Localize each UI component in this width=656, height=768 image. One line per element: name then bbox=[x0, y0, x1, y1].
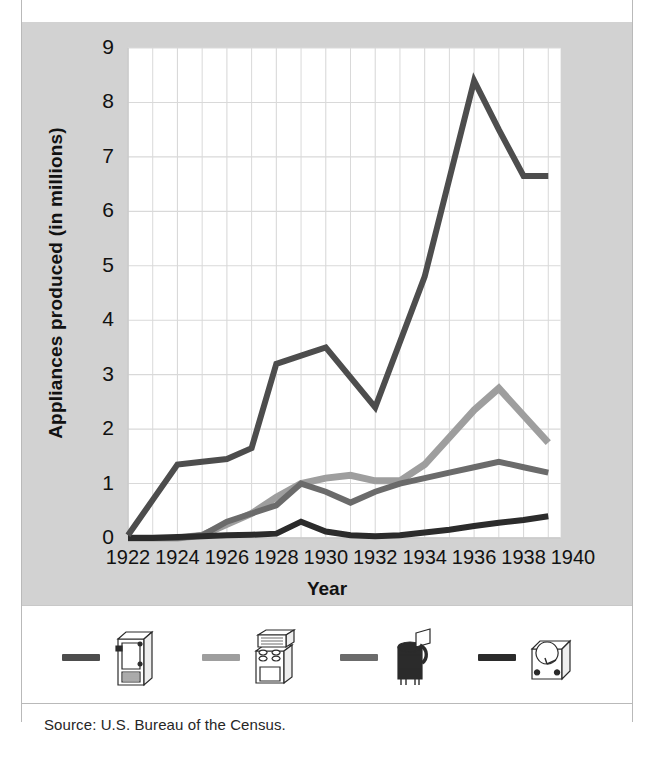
legend-panel bbox=[22, 605, 632, 705]
source-note: Source: U.S. Bureau of the Census. bbox=[44, 716, 286, 733]
y-tick-label: 5 bbox=[84, 253, 114, 277]
source-panel: Source: U.S. Bureau of the Census. bbox=[22, 703, 632, 747]
y-tick-label: 8 bbox=[84, 89, 114, 113]
legend-swatch bbox=[202, 654, 240, 661]
y-tick-label: 6 bbox=[84, 198, 114, 222]
stove-icon bbox=[246, 625, 302, 689]
legend-item-vacuum[interactable] bbox=[478, 624, 578, 690]
legend-swatch bbox=[340, 654, 378, 661]
legend-swatch bbox=[478, 654, 516, 661]
y-tick-label: 9 bbox=[84, 35, 114, 59]
x-axis-title: Year bbox=[22, 578, 632, 600]
legend-item-refrigerator[interactable] bbox=[62, 624, 162, 690]
plot-area-wrapper: Appliances produced (in millions) Year 0… bbox=[22, 22, 632, 605]
legend-item-washing-machine[interactable] bbox=[340, 624, 440, 690]
washing-machine-icon bbox=[384, 625, 440, 689]
y-tick-label: 4 bbox=[84, 307, 114, 331]
vacuum-icon bbox=[522, 625, 578, 689]
x-tick-label: 1940 bbox=[543, 546, 603, 569]
legend-swatch bbox=[62, 654, 100, 661]
figure-root: Appliances produced (in millions) Year 0… bbox=[0, 0, 656, 768]
y-tick-label: 2 bbox=[84, 416, 114, 440]
legend-item-stove[interactable] bbox=[202, 624, 302, 690]
legend-items bbox=[22, 606, 632, 706]
y-tick-label: 1 bbox=[84, 471, 114, 495]
y-tick-label: 7 bbox=[84, 144, 114, 168]
y-axis-title: Appliances produced (in millions) bbox=[45, 103, 67, 463]
figure-title-cutoff bbox=[23, 0, 631, 8]
y-tick-label: 3 bbox=[84, 362, 114, 386]
refrigerator-icon bbox=[106, 625, 162, 689]
